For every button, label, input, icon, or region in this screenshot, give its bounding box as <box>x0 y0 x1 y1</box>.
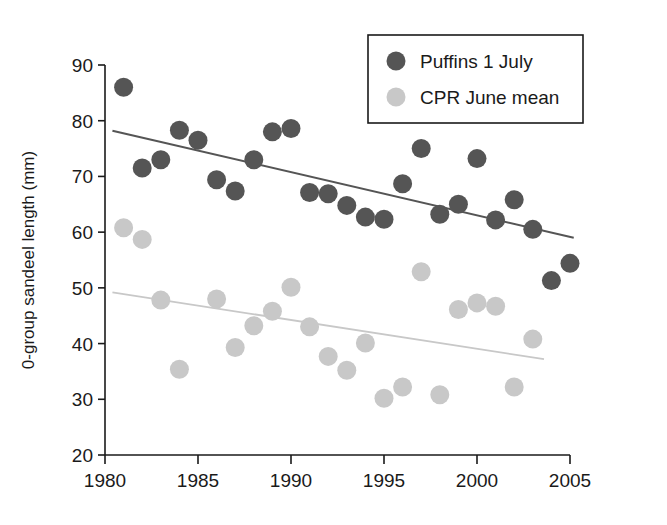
data-point <box>449 300 468 319</box>
data-point <box>244 316 263 335</box>
data-point <box>430 385 449 404</box>
y-tick-label: 40 <box>72 334 93 355</box>
y-tick-label: 30 <box>72 389 93 410</box>
data-point <box>133 159 152 178</box>
data-point <box>114 218 133 237</box>
data-point <box>319 184 338 203</box>
scatter-plot: 2030405060708090 19801985199019952000200… <box>0 0 667 525</box>
data-point <box>263 302 282 321</box>
legend-label[interactable]: CPR June mean <box>420 87 559 108</box>
data-point <box>412 139 431 158</box>
data-point <box>375 389 394 408</box>
legend-label[interactable]: Puffins 1 July <box>420 51 533 72</box>
data-point <box>189 131 208 150</box>
data-point <box>226 181 245 200</box>
data-point <box>114 78 133 97</box>
data-point <box>263 122 282 141</box>
chart-container: 2030405060708090 19801985199019952000200… <box>0 0 667 525</box>
data-point <box>300 183 319 202</box>
data-point <box>207 170 226 189</box>
data-point <box>486 210 505 229</box>
data-point <box>282 278 301 297</box>
data-point <box>337 361 356 380</box>
data-point <box>505 378 524 397</box>
y-tick-label: 80 <box>72 111 93 132</box>
x-tick-label: 1980 <box>84 470 126 491</box>
data-point <box>430 205 449 224</box>
y-tick-label: 60 <box>72 222 93 243</box>
chart-legend[interactable]: Puffins 1 JulyCPR June mean <box>368 35 583 123</box>
data-point <box>300 317 319 336</box>
data-point <box>486 297 505 316</box>
y-tick-label: 50 <box>72 278 93 299</box>
data-point <box>468 293 487 312</box>
y-tick-label: 90 <box>72 55 93 76</box>
y-tick-label: 20 <box>72 445 93 466</box>
y-axis-title: 0-group sandeel length (mm) <box>19 151 38 369</box>
data-point <box>356 208 375 227</box>
data-point <box>282 119 301 138</box>
data-point <box>170 360 189 379</box>
legend-marker <box>387 52 406 71</box>
x-tick-label: 1995 <box>363 470 405 491</box>
data-point <box>561 254 580 273</box>
data-point <box>151 150 170 169</box>
data-point <box>393 378 412 397</box>
data-point <box>542 271 561 290</box>
data-point <box>337 196 356 215</box>
data-point <box>375 210 394 229</box>
data-point <box>523 330 542 349</box>
x-tick-label: 1985 <box>177 470 219 491</box>
legend-box <box>368 35 583 123</box>
data-point <box>356 334 375 353</box>
data-point <box>468 149 487 168</box>
data-point <box>393 174 412 193</box>
y-tick-label: 70 <box>72 166 93 187</box>
data-point <box>449 195 468 214</box>
data-point <box>319 347 338 366</box>
x-tick-label: 2005 <box>549 470 591 491</box>
data-point <box>412 262 431 281</box>
data-point <box>133 230 152 249</box>
x-tick-label: 2000 <box>456 470 498 491</box>
data-point <box>226 338 245 357</box>
data-point <box>151 291 170 310</box>
data-point <box>207 290 226 309</box>
x-tick-label: 1990 <box>270 470 312 491</box>
y-axis-title-text: 0-group sandeel length (mm) <box>19 151 38 369</box>
data-point <box>523 220 542 239</box>
data-point <box>170 121 189 140</box>
legend-marker <box>387 88 406 107</box>
data-point <box>244 150 263 169</box>
data-point <box>505 190 524 209</box>
